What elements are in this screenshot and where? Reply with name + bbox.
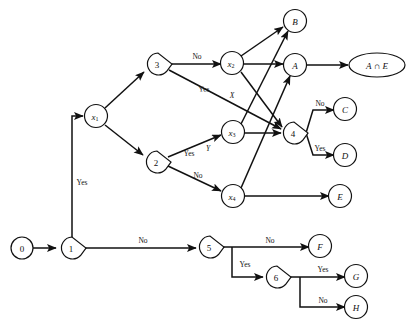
edge-2-to-x3 xyxy=(168,135,221,157)
node-1[interactable]: 1 xyxy=(61,237,86,259)
edge-label-no-from-6: No xyxy=(318,296,327,305)
node-6-shape[interactable] xyxy=(266,266,291,288)
node-F-label: F xyxy=(316,242,323,252)
edge-label-yes-from-5: Yes xyxy=(240,260,251,269)
edge-label-no-from-1: No xyxy=(138,236,147,245)
node-F[interactable]: F xyxy=(309,235,332,258)
edge-label-no-from-5: No xyxy=(265,236,274,245)
edge-x3-to-B xyxy=(241,31,288,124)
node-C[interactable]: C xyxy=(334,98,357,121)
node-3[interactable]: 3 xyxy=(147,53,172,75)
edge-4-to-C xyxy=(306,110,334,133)
edge-label-no-from-4: No xyxy=(315,99,324,108)
edge-label-layer: Yes No No Yes X Yes Y No No Yes No Yes Y… xyxy=(77,52,329,305)
node-5-shape[interactable] xyxy=(199,236,224,258)
node-5[interactable]: 5 xyxy=(199,236,224,258)
node-1-label: 1 xyxy=(69,244,74,254)
node-G-label: G xyxy=(353,272,360,282)
node-6[interactable]: 6 xyxy=(266,266,291,288)
node-0-label: 0 xyxy=(20,244,25,254)
edge-label-no-from-2: No xyxy=(193,171,202,180)
node-A[interactable]: A xyxy=(284,54,307,77)
node-H-label: H xyxy=(352,303,360,313)
node-B[interactable]: B xyxy=(284,10,307,33)
diagram-svg: Yes No No Yes X Yes Y No No Yes No Yes Y… xyxy=(0,0,411,326)
node-x4[interactable]: x4 xyxy=(222,185,245,208)
node-x2[interactable]: x2 xyxy=(221,52,244,75)
node-4-shape[interactable] xyxy=(283,122,308,144)
node-4-label: 4 xyxy=(291,129,296,139)
node-A-label: A xyxy=(291,61,298,71)
node-5-label: 5 xyxy=(207,243,212,253)
edge-label-yes-from-1: Yes xyxy=(77,178,88,187)
edge-x1-to-3 xyxy=(105,72,144,108)
node-0[interactable]: 0 xyxy=(11,237,33,259)
node-6-label: 6 xyxy=(274,273,279,283)
node-3-shape[interactable] xyxy=(147,53,172,75)
node-B-label: B xyxy=(292,17,298,27)
node-D-label: D xyxy=(341,151,349,161)
node-x1[interactable]: x1 xyxy=(85,105,108,128)
diagram-canvas: Yes No No Yes X Yes Y No No Yes No Yes Y… xyxy=(0,0,411,326)
edge-x1-to-2 xyxy=(105,125,143,155)
edge-x2-to-B xyxy=(241,27,283,56)
node-x3[interactable]: x3 xyxy=(222,121,245,144)
node-E[interactable]: E xyxy=(329,185,352,208)
node-A-intersect-E-label: A ∩ E xyxy=(365,61,388,71)
edge-label-y-from-2: Y xyxy=(206,144,211,153)
node-C-label: C xyxy=(342,105,349,115)
node-E-label: E xyxy=(336,192,343,202)
edge-label-yes-from-2: Yes xyxy=(184,149,195,158)
node-layer: 0 1 x1 3 2 xyxy=(11,10,405,319)
edge-label-yes-from-3: Yes xyxy=(198,84,209,93)
node-1-shape[interactable] xyxy=(61,237,86,259)
edge-label-no-from-3: No xyxy=(192,52,201,61)
node-2-label: 2 xyxy=(154,158,159,168)
edge-x4-to-A xyxy=(241,76,290,188)
edge-label-yes-from-6: Yes xyxy=(318,265,329,274)
node-G[interactable]: G xyxy=(345,265,368,288)
node-A-intersect-E[interactable]: A ∩ E xyxy=(349,53,405,77)
node-4[interactable]: 4 xyxy=(283,122,308,144)
node-2[interactable]: 2 xyxy=(146,151,171,173)
node-D[interactable]: D xyxy=(334,144,357,167)
edge-label-yes-from-4: Yes xyxy=(315,144,326,153)
node-3-label: 3 xyxy=(155,60,160,70)
node-H[interactable]: H xyxy=(345,296,368,319)
edge-label-x-from-3: X xyxy=(229,91,235,100)
node-2-shape[interactable] xyxy=(146,151,171,173)
